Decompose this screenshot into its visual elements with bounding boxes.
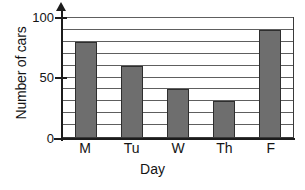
x-tick-label-Tu: Tu	[108, 140, 154, 160]
bar-F[interactable]	[259, 30, 281, 137]
bar-M[interactable]	[75, 42, 97, 137]
y-tick-label-0: 0	[20, 132, 54, 145]
y-axis-line	[61, 8, 63, 141]
y-tick-label-50: 50	[20, 71, 54, 84]
y-axis-tick-mark-50	[55, 77, 67, 79]
y-axis-tick-mark-100	[55, 17, 67, 19]
x-axis-tick-labels: MTuWThF	[62, 140, 294, 160]
bar-W[interactable]	[167, 89, 189, 137]
x-tick-label-M: M	[62, 140, 108, 160]
bar-slot	[247, 18, 293, 137]
bar-slot	[109, 18, 155, 137]
bar-Th[interactable]	[213, 101, 235, 137]
y-axis-arrow-icon	[56, 2, 66, 11]
x-tick-label-W: W	[155, 140, 201, 160]
bar-slot	[201, 18, 247, 137]
bars-layer	[63, 18, 293, 137]
bar-Tu[interactable]	[121, 66, 143, 137]
x-tick-label-F: F	[248, 140, 294, 160]
plot-area	[62, 17, 294, 138]
bar-slot	[155, 18, 201, 137]
x-axis-title: Day	[0, 161, 305, 177]
bar-slot	[63, 18, 109, 137]
y-tick-label-100: 100	[20, 11, 54, 24]
x-tick-label-Th: Th	[201, 140, 247, 160]
bar-chart-figure: Number of cars 100 50 0 MTuWThF Day	[0, 0, 305, 190]
